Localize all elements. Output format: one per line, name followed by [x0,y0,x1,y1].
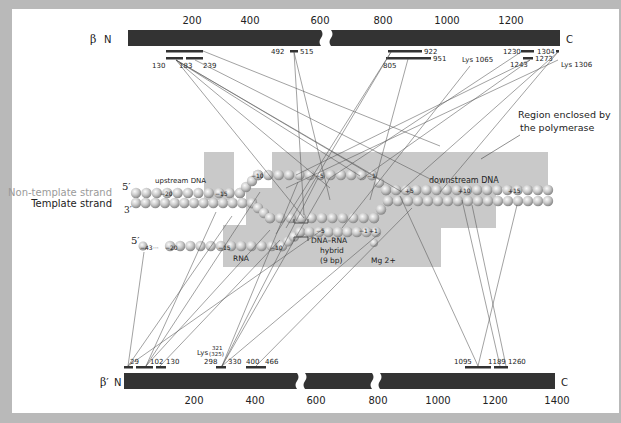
beta-prime-tick: 1400 [544,395,569,406]
beta-tick: 1000 [434,15,459,26]
beta-greek-label: β [90,33,96,46]
beta-prime-seg-label: 1260 [508,358,526,366]
region-annotation-line2: the polymerase [520,122,594,133]
beta-prime-greek-label: β′ [100,376,109,389]
beta-prime-seg-label: 130 [166,358,179,366]
hybrid-label: (9 bp) [320,256,343,265]
pos-label: −20 [165,244,178,251]
beta-prime-n-terminus-label: N [114,377,121,388]
beta-tick: 1200 [498,15,523,26]
beta-prime-seg-label: 298 [204,358,217,366]
non-template-strand-label: Non-template strand [8,187,112,198]
beta-prime-tick: 1200 [482,395,507,406]
beta-seg-label: 805 [383,62,396,70]
beta-prime-seg-label: 1189 [488,358,506,366]
beta-prime-seg-label: 466 [265,358,279,366]
beta-tick: 600 [310,15,329,26]
beta-prime-axis-ticks: 200 400 600 800 1000 1200 1400 [184,395,569,406]
beta-prime-tick: 800 [368,395,387,406]
beta-prime-c-terminus-label: C [561,377,568,388]
pos-label: −10 [251,172,264,179]
upstream-dna-label: upstream DNA [155,177,206,185]
beta-prime-tick: 400 [245,395,264,406]
pos-label: +15 [508,187,521,194]
beta-prime-tick: 200 [184,395,203,406]
beta-prime-segments [124,366,508,369]
pos-label: −43 [140,244,153,251]
beta-axis-ticks: 200 400 600 800 1000 1200 [182,15,523,26]
beta-seg-label: 1230 [503,48,521,56]
beta-n-terminus-label: N [104,34,111,45]
beta-seg-label: 239 [203,62,216,70]
beta-tick: 400 [240,15,259,26]
hybrid-label: hybrid [320,246,344,255]
pos-label: −15 [215,190,228,197]
beta-prime-tick: 600 [306,395,325,406]
beta-prime-tick: 1000 [425,395,450,406]
mg-label: Mg 2+ [371,256,396,265]
rnap-crosslink-diagram: β N C 200 400 600 800 1000 1200 130 183 … [0,0,621,423]
pos-label: −20 [160,190,173,197]
template-strand-label: Template strand [30,198,112,209]
region-annotation-line1: Region enclosed by [518,109,611,120]
beta-seg-label: 130 [152,62,165,70]
beta-prime-subunit-bar [124,373,555,389]
beta-prime-lys-label: Lys [197,349,208,357]
beta-prime-seg-label: 1095 [454,358,472,366]
pos-label: +5 [405,187,414,194]
beta-seg-label: 492 [271,48,284,56]
beta-tick: 200 [182,15,201,26]
beta-seg-label: Lys 1306 [561,61,593,69]
three-prime-label: 3′ [124,205,132,215]
pos-label: −15 [218,244,231,251]
pos-label: ··· [153,244,159,251]
beta-seg-label: Lys 1065 [462,56,493,64]
five-prime-label: 5′ [122,181,131,192]
rna-five-prime-label: 5′ [131,235,140,246]
beta-seg-label: 951 [433,55,446,63]
beta-seg-label: 515 [300,48,313,56]
pos-label: +10 [458,187,471,194]
beta-subunit-bar [128,30,560,46]
hybrid-label: DNA–RNA [311,236,348,245]
pos-label: +1 [369,227,378,234]
beta-prime-lys-bottom: (325) [209,351,224,357]
pos-label: −5 [315,172,324,179]
beta-tick: 800 [373,15,392,26]
pos-label: −1 [359,227,368,234]
beta-segments [166,50,559,60]
beta-c-terminus-label: C [566,34,573,45]
